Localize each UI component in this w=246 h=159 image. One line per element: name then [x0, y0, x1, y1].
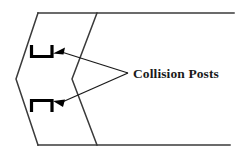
collision-posts-label: Collision Posts: [133, 66, 219, 81]
collision-posts-diagram: Collision Posts: [0, 0, 246, 159]
upper-arrowhead-icon: [53, 48, 65, 55]
lower-arrowhead-icon: [53, 100, 65, 108]
upper-collision-post-glyph: [32, 45, 53, 57]
outer-chevron-line: [16, 13, 38, 145]
inner-chevron-line: [72, 13, 97, 145]
upper-leader-line: [60, 52, 128, 74]
diagram-canvas: Collision Posts: [0, 0, 246, 159]
lower-leader-line: [60, 73, 128, 103]
lower-collision-post-glyph: [32, 101, 53, 113]
